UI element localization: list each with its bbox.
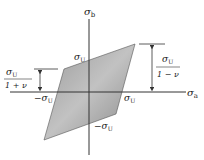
label-bottom-neg-sigma-u: −σU <box>94 121 113 132</box>
right-fraction-denominator: 1 − ν <box>157 70 179 79</box>
left-fraction-numerator: σU <box>6 67 17 78</box>
right-fraction-numerator: σU <box>162 54 173 65</box>
failure-envelope-diagram: σa σb σU σU −σU −σU σU 1 + ν σU 1 − ν <box>0 0 204 160</box>
label-right-sigma-u: σU <box>124 93 135 104</box>
x-axis-label: σa <box>187 87 198 100</box>
label-top-sigma-u: σU <box>74 52 85 63</box>
left-fraction-denominator: 1 + ν <box>5 81 27 90</box>
label-left-neg-sigma-u: −σU <box>34 93 53 104</box>
y-axis-label: σb <box>84 6 96 19</box>
